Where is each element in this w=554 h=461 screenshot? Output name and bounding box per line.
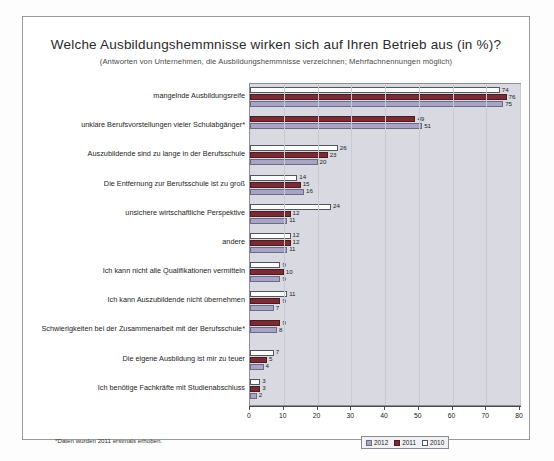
category-label: mangelnde Ausbildungsreife [153, 92, 245, 100]
bar-2011 [250, 320, 280, 326]
legend-item-2011[interactable]: 2011 [394, 439, 416, 446]
bar-value-label: 23 [330, 152, 337, 158]
bar-value-label: 26 [340, 145, 347, 151]
gridline [453, 84, 454, 405]
bar-2011 [250, 152, 328, 158]
category-label-column: mangelnde Ausbildungsreifeunklare Berufs… [53, 83, 245, 406]
axis-tick [317, 406, 318, 410]
plot-area: 7476754951262320141516241211121211910911… [249, 83, 521, 406]
axis-tick-label: 20 [313, 412, 321, 419]
legend-label: 2012 [374, 439, 388, 446]
bar-value-label: 8 [279, 327, 282, 333]
bar-value-label: 74 [502, 87, 509, 93]
axis-tick [485, 406, 486, 410]
legend-swatch-icon [366, 440, 372, 446]
bar-2011 [250, 94, 507, 100]
bar-value-label: 4 [266, 363, 269, 369]
bar-value-label: 3 [262, 385, 265, 391]
axis-tick [350, 406, 351, 410]
axis-tick [519, 406, 520, 410]
legend-label: 2010 [430, 439, 444, 446]
legend-item-2010[interactable]: 2010 [422, 439, 444, 446]
category-label: Die Entfernung zur Berufsschule ist zu g… [104, 180, 245, 188]
bar-2012 [250, 276, 280, 282]
bar-value-label: 20 [320, 159, 327, 165]
chart-title: Welche Ausbildungshemmnisse wirken sich … [23, 37, 529, 52]
bar-value-label: 76 [509, 94, 516, 100]
axis-tick-label: 30 [346, 412, 354, 419]
bar-2012 [250, 393, 257, 399]
gridline [351, 84, 352, 405]
bar-value-label: 7 [276, 305, 279, 311]
bar-2011 [250, 357, 267, 363]
bar-2012 [250, 327, 277, 333]
bar-value-label: 16 [306, 188, 313, 194]
bar-value-label: 5 [269, 356, 272, 362]
footnote: *Daten wurden 2011 erstmals erhoben. [55, 437, 162, 444]
bar-value-label: 11 [289, 246, 295, 252]
axis-tick [384, 406, 385, 410]
axis-tick-label: 70 [481, 412, 489, 419]
axis-tick-label: 80 [515, 412, 523, 419]
category-label: Ich kann Auszubildende nicht übernehmen [107, 296, 245, 304]
category-label: unklare Berufsvorstellungen vieler Schul… [81, 121, 245, 129]
category-label: unsichere wirtschaftliche Perspektive [125, 209, 245, 217]
bar-2010 [250, 175, 297, 181]
gridline [385, 84, 386, 405]
category-label: Die eigene Ausbildung ist mir zu teuer [123, 355, 246, 363]
gridline [318, 84, 319, 405]
legend-swatch-icon [394, 440, 400, 446]
bar-2011 [250, 182, 301, 188]
axis-tick-label: 40 [380, 412, 388, 419]
bar-2012 [250, 218, 287, 224]
axis-tick [283, 406, 284, 410]
bar-2012 [250, 305, 274, 311]
bar-2012 [250, 189, 304, 195]
bar-2010 [250, 87, 500, 93]
gridline [284, 84, 285, 405]
bar-value-label: 11 [289, 291, 295, 297]
axis-tick-label: 0 [247, 412, 251, 419]
bar-2011 [250, 116, 415, 122]
bar-value-label: 2 [259, 392, 262, 398]
legend-swatch-icon [422, 440, 428, 446]
bar-value-label: 10 [286, 269, 293, 275]
axis-tick-label: 60 [448, 412, 456, 419]
category-label: Ich benötige Fachkräfte mit Studienabsch… [98, 384, 245, 392]
category-label: andere [222, 238, 245, 246]
bar-2010 [250, 145, 338, 151]
axis-tick [452, 406, 453, 410]
gridline [486, 84, 487, 405]
bar-value-label: 75 [505, 101, 512, 107]
axis-line [249, 406, 521, 407]
bar-2012 [250, 123, 422, 129]
x-axis: 01020304050607080 [249, 406, 521, 426]
category-label: Auszubildende sind zu lange in der Beruf… [88, 150, 245, 158]
chart-frame: Welche Ausbildungshemmnisse wirken sich … [22, 16, 530, 440]
chart-subtitle: (Antworten von Unternehmen, die Ausbildu… [23, 57, 529, 66]
bar-2012 [250, 364, 264, 370]
axis-tick-label: 10 [279, 412, 287, 419]
legend-label: 2011 [402, 439, 416, 446]
legend-item-2012[interactable]: 2012 [366, 439, 388, 446]
bar-2012 [250, 247, 287, 253]
category-label: Schwierigkeiten bei der Zusammenarbeit m… [41, 325, 245, 333]
bar-2010 [250, 262, 280, 268]
bar-value-label: 24 [333, 203, 340, 209]
bar-2012 [250, 101, 503, 107]
axis-tick [249, 406, 250, 410]
gridline [520, 84, 521, 405]
bar-2011 [250, 269, 284, 275]
bar-2010 [250, 204, 331, 210]
bar-value-label: 7 [276, 349, 279, 355]
bar-2010 [250, 379, 260, 385]
gridline [419, 84, 420, 405]
bar-value-label: 11 [289, 217, 295, 223]
axis-tick-label: 50 [414, 412, 422, 419]
category-label: Ich kann nicht alle Qualifikationen verm… [103, 267, 245, 275]
chart-legend: 201220112010 [361, 436, 449, 449]
axis-tick [418, 406, 419, 410]
scan-page: Welche Ausbildungshemmnisse wirken sich … [0, 0, 554, 461]
bar-value-label: 51 [424, 123, 431, 129]
